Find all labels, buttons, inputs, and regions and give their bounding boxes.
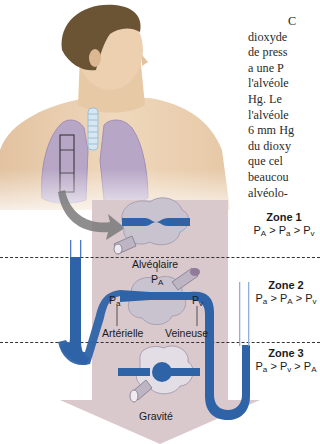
arterial-pressure-label: Pa — [109, 294, 120, 308]
body-text-line: l'alvéole — [248, 108, 320, 124]
zone-3-relation: Pa > Pv > PA — [250, 360, 320, 374]
venous-label: Veineuse — [165, 327, 208, 339]
alveolar-label: Alvéolaire — [132, 258, 178, 270]
gravity-label: Gravité — [139, 410, 173, 422]
body-text-line: du dioxy — [248, 139, 320, 155]
body-text-line: 6 mm Hg — [248, 123, 320, 139]
body-text-line: l'alvéole — [248, 76, 320, 92]
arterial-label: Artérielle — [102, 327, 143, 339]
zone-2-title: Zone 2 — [250, 279, 320, 291]
zone-1-label: Zone 1 PA > Pa > Pv — [248, 211, 320, 238]
zone-2-label: Zone 2 Pa > PA > Pv — [250, 279, 320, 306]
zone-3-title: Zone 3 — [250, 347, 320, 359]
zone-3-label: Zone 3 Pa > Pv > PA — [250, 347, 320, 374]
body-text-line: beaucou — [248, 170, 320, 186]
body-text-line: C — [248, 14, 320, 30]
body-text-line: dioxyde — [248, 30, 320, 46]
body-text-line: Hg. Le — [248, 92, 320, 108]
body-text-line: de press — [248, 45, 320, 61]
venous-pressure-label: Pv — [192, 294, 203, 308]
zone-1-title: Zone 1 — [248, 211, 320, 223]
zone-1-relation: PA > Pa > Pv — [248, 224, 320, 238]
body-text-column: C dioxyde de press a une P l'alvéole Hg.… — [248, 14, 320, 201]
body-text-line: que cel — [248, 154, 320, 170]
alveolar-pressure-label: PA — [151, 273, 163, 287]
zone-2-relation: Pa > PA > Pv — [250, 292, 320, 306]
body-text-line: a une P — [248, 61, 320, 77]
body-text-line: alvéolo- — [248, 186, 320, 202]
